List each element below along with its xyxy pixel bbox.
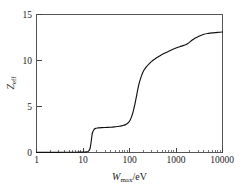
y-axis-ticks — [37, 15, 42, 153]
x-tick-label-10000: 10000 — [210, 155, 234, 165]
x-tick-label-1: 1 — [34, 155, 39, 165]
x-axis-title: Wmax/eV — [112, 171, 148, 184]
x-tick-label-10: 10 — [78, 155, 88, 165]
data-curve-zeff — [37, 32, 223, 152]
x-axis-title-subscript: max — [120, 176, 133, 184]
plot-frame — [37, 15, 223, 153]
y-tick-label-15: 15 — [23, 10, 33, 20]
x-axis-tick-labels: 1 10 100 1000 10000 — [34, 155, 234, 165]
y-axis-tick-labels: 0 5 10 15 — [23, 10, 33, 158]
y-tick-label-10: 10 — [23, 56, 33, 66]
figure-container: 0 5 10 15 1 10 100 1000 10000 Wmax/eV — [0, 0, 241, 188]
svg-text:Wmax/eV: Wmax/eV — [112, 171, 148, 184]
y-axis-title: Zeff — [5, 76, 18, 90]
y-tick-label-0: 0 — [27, 148, 32, 158]
y-axis-title-subscript: eff — [10, 76, 18, 84]
chart-canvas: 0 5 10 15 1 10 100 1000 10000 Wmax/eV — [0, 0, 241, 188]
x-tick-label-100: 100 — [122, 155, 137, 165]
y-tick-label-5: 5 — [27, 102, 32, 112]
svg-text:Zeff: Zeff — [5, 76, 18, 90]
x-axis-title-unit: /eV — [132, 171, 147, 182]
x-tick-label-1000: 1000 — [167, 155, 186, 165]
